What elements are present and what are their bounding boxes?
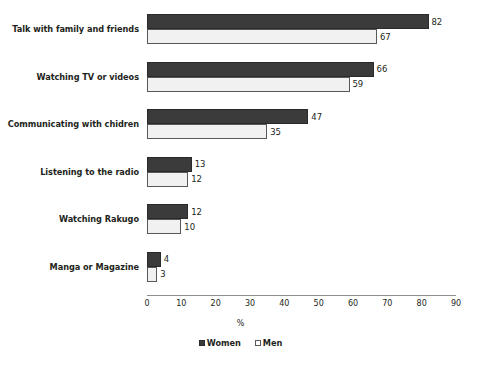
category-label: Listening to the radio	[5, 168, 139, 176]
x-axis-tick-label: 30	[245, 300, 255, 308]
legend-label-women: Women	[207, 339, 241, 347]
x-axis-line	[147, 295, 456, 296]
bar-row: 3	[147, 267, 456, 282]
x-axis-tick-label: 20	[211, 300, 221, 308]
bar-row: 66	[147, 62, 456, 77]
bar-value-label: 12	[191, 207, 202, 216]
bar-women[interactable]	[147, 62, 374, 77]
legend-label-men: Men	[263, 339, 282, 347]
bar-chart: Talk with family and friends8267Watching…	[0, 0, 481, 368]
category-group: Communicating with chidren4735	[147, 109, 456, 139]
bar-men[interactable]	[147, 124, 267, 139]
bar-row: 12	[147, 172, 456, 187]
x-axis-tick-label: 80	[417, 300, 427, 308]
bar-row: 4	[147, 252, 456, 267]
x-axis-tick-label: 40	[279, 300, 289, 308]
legend-item-women[interactable]: Women	[199, 339, 241, 347]
bar-row: 47	[147, 109, 456, 124]
x-axis-tick-label: 90	[451, 300, 461, 308]
category-label: Watching TV or videos	[5, 73, 139, 81]
plot-area: Talk with family and friends8267Watching…	[147, 10, 456, 295]
bar-value-label: 3	[160, 270, 165, 279]
category-group: Listening to the radio1312	[147, 157, 456, 187]
bar-men[interactable]	[147, 172, 188, 187]
bar-row: 82	[147, 14, 456, 29]
bar-value-label: 13	[195, 160, 206, 169]
bar-row: 35	[147, 124, 456, 139]
bar-row: 13	[147, 157, 456, 172]
bar-value-label: 59	[353, 80, 364, 89]
bar-row: 67	[147, 29, 456, 44]
category-group: Watching Rakugo1210	[147, 204, 456, 234]
bar-men[interactable]	[147, 77, 350, 92]
category-label: Manga or Magazine	[5, 263, 139, 271]
x-axis-title: %	[0, 320, 481, 328]
bar-row: 10	[147, 219, 456, 234]
x-axis-tick-label: 0	[144, 300, 149, 308]
x-axis-tick-label: 70	[382, 300, 392, 308]
category-group: Manga or Magazine43	[147, 252, 456, 282]
bar-women[interactable]	[147, 109, 308, 124]
bar-value-label: 10	[184, 222, 195, 231]
category-label: Communicating with chidren	[5, 120, 139, 128]
x-axis-tick-label: 60	[348, 300, 358, 308]
bar-women[interactable]	[147, 204, 188, 219]
category-label: Watching Rakugo	[5, 215, 139, 223]
x-axis-tick-label: 50	[314, 300, 324, 308]
category-group: Talk with family and friends8267	[147, 14, 456, 44]
legend-item-men[interactable]: Men	[255, 339, 282, 347]
bar-women[interactable]	[147, 252, 161, 267]
bar-men[interactable]	[147, 219, 181, 234]
bar-row: 12	[147, 204, 456, 219]
x-axis-tick-label: 10	[176, 300, 186, 308]
category-label: Talk with family and friends	[5, 25, 139, 33]
bar-women[interactable]	[147, 14, 429, 29]
bar-value-label: 35	[270, 127, 281, 136]
bar-men[interactable]	[147, 29, 377, 44]
category-group: Watching TV or videos6659	[147, 62, 456, 92]
bar-women[interactable]	[147, 157, 192, 172]
bar-value-label: 66	[377, 65, 388, 74]
bar-value-label: 82	[432, 17, 443, 26]
chart-legend: Women Men	[0, 339, 481, 347]
bar-row: 59	[147, 77, 456, 92]
bar-men[interactable]	[147, 267, 157, 282]
bar-value-label: 47	[311, 112, 322, 121]
filled-dark-square-icon	[199, 340, 205, 346]
bar-value-label: 12	[191, 175, 202, 184]
outlined-white-square-icon	[255, 340, 261, 346]
bar-value-label: 67	[380, 32, 391, 41]
bar-value-label: 4	[164, 255, 169, 264]
